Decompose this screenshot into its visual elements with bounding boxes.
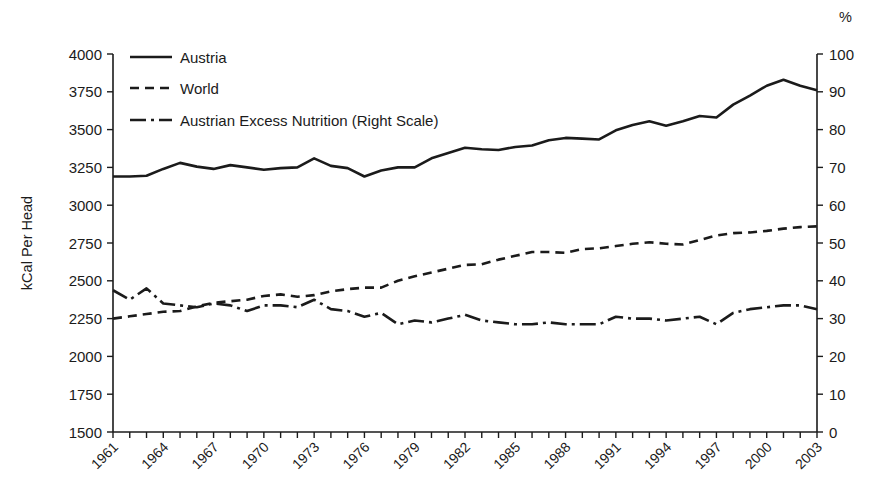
right-axis-tick-label: 0 [829, 424, 837, 441]
right-axis-tick-label: 100 [829, 46, 854, 63]
x-axis-tick-label: 1961 [88, 439, 121, 472]
x-axis-tick-label: 1994 [641, 439, 674, 472]
right-axis-unit-label: % [839, 9, 852, 25]
series-line-austrian-excess-nutrition-right-scale [113, 288, 817, 324]
x-axis-tick-label: 1964 [138, 439, 171, 472]
left-axis-tick-label: 3000 [69, 197, 102, 214]
x-axis-tick-label: 1967 [188, 439, 221, 472]
legend-label-2: World [180, 80, 219, 97]
x-axis-tick-label: 1976 [339, 439, 372, 472]
x-axis-tick-label: 2003 [792, 439, 825, 472]
left-axis-tick-label: 1750 [69, 386, 102, 403]
x-axis-tick-label: 1973 [289, 439, 322, 472]
chart-container: 1500175020002250250027503000325035003750… [0, 0, 878, 494]
right-axis-tick-label: 90 [829, 83, 846, 100]
right-axis-tick-label: 60 [829, 197, 846, 214]
x-axis-tick-label: 1988 [540, 439, 573, 472]
left-axis-tick-label: 4000 [69, 46, 102, 63]
right-axis-tick-label: 70 [829, 159, 846, 176]
left-axis-tick-label: 3500 [69, 121, 102, 138]
right-axis-tick-label: 30 [829, 310, 846, 327]
left-axis-tick-label: 2750 [69, 235, 102, 252]
right-axis-tick-label: 80 [829, 121, 846, 138]
left-axis-tick-label: 1500 [69, 424, 102, 441]
right-axis-tick-label: 10 [829, 386, 846, 403]
right-axis-tick-label: 50 [829, 235, 846, 252]
x-axis-tick-label: 1979 [389, 439, 422, 472]
right-axis-tick-label: 20 [829, 348, 846, 365]
left-axis-tick-label: 2500 [69, 272, 102, 289]
x-axis-tick-label: 1991 [591, 439, 624, 472]
left-axis-tick-label: 3250 [69, 159, 102, 176]
line-chart: 1500175020002250250027503000325035003750… [0, 0, 878, 494]
legend-label-1: Austria [180, 49, 227, 66]
x-axis-tick-label: 2000 [741, 439, 774, 472]
left-axis-tick-label: 3750 [69, 83, 102, 100]
x-axis-tick-label: 1970 [239, 439, 272, 472]
left-axis-tick-label: 2000 [69, 348, 102, 365]
x-axis-tick-label: 1982 [440, 439, 473, 472]
legend-label-3: Austrian Excess Nutrition (Right Scale) [180, 112, 438, 129]
x-axis-tick-label: 1985 [490, 439, 523, 472]
right-axis-tick-label: 40 [829, 272, 846, 289]
x-axis-tick-label: 1997 [691, 439, 724, 472]
left-axis-tick-label: 2250 [69, 310, 102, 327]
left-axis-title: kCal Per Head [19, 196, 35, 290]
